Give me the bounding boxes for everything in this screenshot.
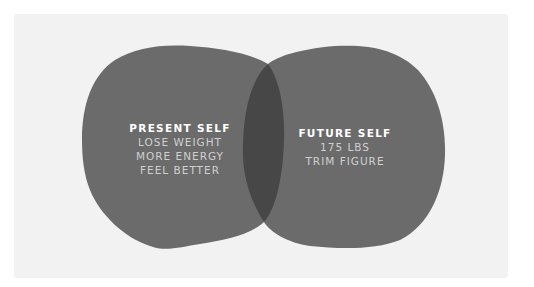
venn-diagram — [0, 0, 534, 287]
present-self-item: MORE ENERGY — [120, 149, 240, 163]
present-self-title: PRESENT SELF — [120, 121, 240, 135]
future-self-label: FUTURE SELF 175 LBS TRIM FIGURE — [290, 126, 400, 168]
present-self-item: FEEL BETTER — [120, 163, 240, 177]
present-self-item: LOSE WEIGHT — [120, 135, 240, 149]
future-self-title: FUTURE SELF — [290, 126, 400, 140]
future-self-item: 175 LBS — [290, 140, 400, 154]
future-self-item: TRIM FIGURE — [290, 154, 400, 168]
present-self-label: PRESENT SELF LOSE WEIGHT MORE ENERGY FEE… — [120, 121, 240, 177]
